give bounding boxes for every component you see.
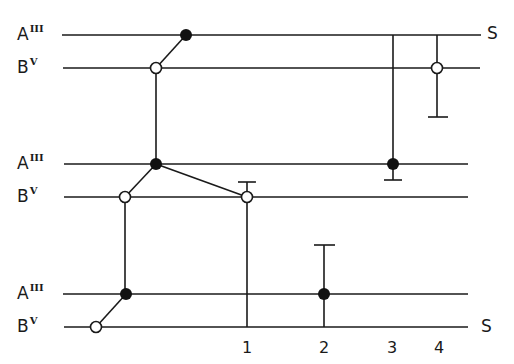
level-label: BV [17, 188, 37, 205]
filled-point [318, 288, 330, 300]
open-point [91, 322, 102, 333]
open-point [151, 63, 162, 74]
open-point [242, 192, 253, 203]
level-label: BV [17, 59, 37, 76]
filled-point [120, 288, 132, 300]
end-label-bottom: S [481, 318, 492, 335]
axis-tick-3: 3 [387, 340, 397, 356]
filled-point [387, 158, 399, 170]
axis-tick-2: 2 [319, 340, 329, 356]
end-label-top: S [487, 25, 498, 42]
axis-tick-4: 4 [434, 340, 444, 356]
filled-point [180, 29, 192, 41]
level-label: AIII [17, 155, 44, 172]
level-label: AIII [17, 285, 44, 302]
filled-point [150, 158, 162, 170]
level-label: BV [17, 318, 37, 335]
axis-tick-1: 1 [242, 340, 252, 356]
level-label: AIII [17, 26, 44, 43]
diagram-canvas [0, 0, 514, 364]
open-point [120, 192, 131, 203]
open-point [432, 63, 443, 74]
